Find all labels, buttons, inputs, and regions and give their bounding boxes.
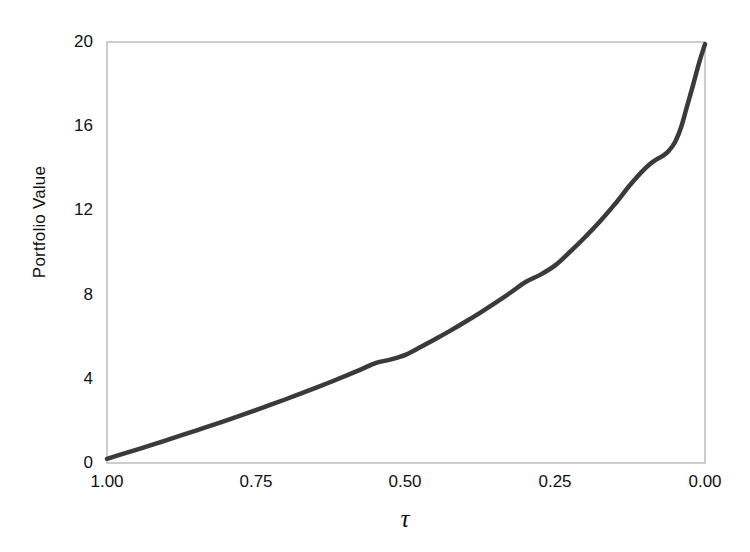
axes-frame-rect bbox=[107, 42, 705, 463]
data-series-group bbox=[107, 44, 705, 459]
plot-area bbox=[0, 0, 750, 552]
axes-frame bbox=[107, 42, 705, 463]
chart-figure: Portfolio Value 0 4 8 12 16 20 1.00 0.75… bbox=[0, 0, 750, 552]
line-series-portfolio-value bbox=[107, 44, 705, 459]
